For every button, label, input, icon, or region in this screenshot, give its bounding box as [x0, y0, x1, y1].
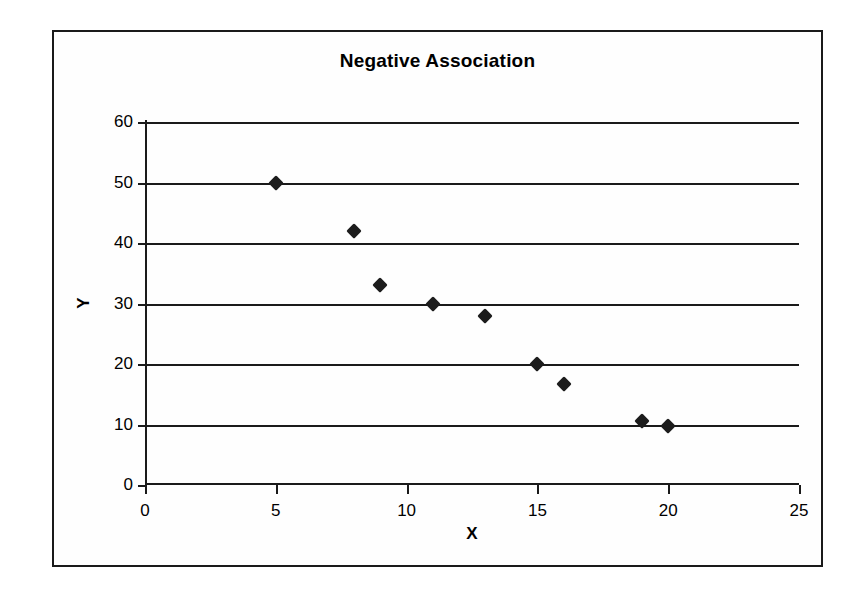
x-axis-tick-label: 25: [790, 501, 809, 521]
gridline: [145, 122, 799, 124]
y-axis-title: Y: [74, 297, 94, 308]
y-axis-tick: [138, 183, 145, 185]
y-axis-tick: [138, 425, 145, 427]
x-axis-tick-label: 5: [271, 501, 280, 521]
x-axis-tick: [145, 485, 147, 494]
data-point: [268, 175, 284, 191]
y-axis-tick: [138, 243, 145, 245]
y-axis-tick-label: 0: [124, 475, 133, 495]
data-point: [477, 308, 493, 324]
x-axis-tick: [668, 485, 670, 494]
y-axis-tick: [138, 304, 145, 306]
plot-inner: 0102030405060 0510152025: [145, 122, 799, 485]
x-axis-tick-label: 10: [397, 501, 416, 521]
x-axis-tick: [276, 485, 278, 494]
chart-frame: Negative Association 0102030405060 05101…: [52, 30, 823, 567]
x-axis-line: [145, 483, 799, 485]
gridline: [145, 183, 799, 185]
gridline: [145, 243, 799, 245]
x-axis-tick-label: 20: [659, 501, 678, 521]
gridline: [145, 425, 799, 427]
x-axis-tick-label: 15: [528, 501, 547, 521]
data-point: [556, 376, 572, 392]
y-axis-tick-label: 50: [114, 173, 133, 193]
x-axis-tick: [537, 485, 539, 494]
gridline: [145, 304, 799, 306]
y-axis-tick: [138, 122, 145, 124]
x-axis-tick-label: 0: [140, 501, 149, 521]
x-axis-title: X: [145, 524, 799, 544]
y-axis-tick: [138, 364, 145, 366]
data-point: [425, 296, 441, 312]
plot-area: 0102030405060 0510152025: [145, 122, 799, 485]
y-axis-tick-label: 10: [114, 415, 133, 435]
data-point: [373, 278, 389, 294]
data-point: [346, 223, 362, 239]
y-axis-tick-label: 40: [114, 233, 133, 253]
data-point: [530, 356, 546, 372]
x-axis-tick: [799, 485, 801, 494]
x-axis-tick: [407, 485, 409, 494]
y-axis-tick-label: 30: [114, 294, 133, 314]
chart-title: Negative Association: [54, 50, 821, 72]
gridline: [145, 364, 799, 366]
data-point: [660, 418, 676, 434]
y-axis-tick-label: 60: [114, 112, 133, 132]
y-axis-tick: [138, 485, 145, 487]
y-axis-tick-label: 20: [114, 354, 133, 374]
